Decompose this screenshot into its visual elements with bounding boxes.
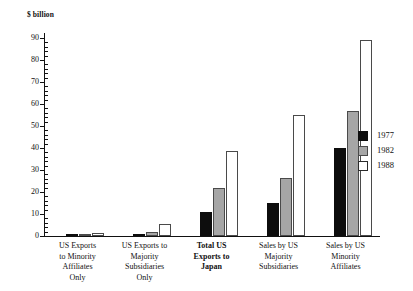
category-label-line: Only xyxy=(111,273,178,284)
category-label-line: Majority xyxy=(111,252,178,263)
category-label-line: Sales by US xyxy=(312,241,379,252)
category-label: US Exports toMajoritySubsidiariesOnly xyxy=(111,241,178,283)
y-tick-label: 20 xyxy=(31,188,39,196)
y-tick-label: 40 xyxy=(31,144,39,152)
legend-item: 1977 xyxy=(358,128,413,143)
category-label-line: Subsidiaries xyxy=(111,262,178,273)
gray-filled-swatch xyxy=(358,146,368,156)
bar-1988-1 xyxy=(92,233,104,236)
bar-1988-3 xyxy=(226,151,238,236)
bar-1977-5 xyxy=(334,148,346,236)
bar-group xyxy=(66,33,104,236)
category-label-line: Total US xyxy=(178,241,245,252)
category-label-line: Subsidiaries xyxy=(245,262,312,273)
bar-1977-2 xyxy=(133,234,145,236)
plot-area: 0102030405060708090 xyxy=(44,33,380,237)
bar-1977-1 xyxy=(66,234,78,236)
category-label-line: Japan xyxy=(178,262,245,273)
bar-1988-4 xyxy=(293,115,305,236)
bar-group xyxy=(267,33,305,236)
bar-1977-4 xyxy=(267,203,279,236)
y-axis-unit-caption: $ billion xyxy=(27,10,54,19)
category-label-line: to Minority xyxy=(44,252,111,263)
black-filled-swatch xyxy=(358,131,368,141)
y-tick-label: 10 xyxy=(31,210,39,218)
legend-item: 1988 xyxy=(358,158,413,173)
y-tick-label: 80 xyxy=(31,56,39,64)
category-label-line: Majority xyxy=(245,252,312,263)
bar-1982-1 xyxy=(79,234,91,236)
legend-label: 1982 xyxy=(377,146,394,155)
bar-chart: $ billion 0102030405060708090 US Exports… xyxy=(0,0,413,291)
category-label-line: Affiliates xyxy=(44,262,111,273)
legend-label: 1988 xyxy=(377,161,394,170)
legend-item: 1982 xyxy=(358,143,413,158)
y-tick-label: 0 xyxy=(35,232,39,240)
white-outline-swatch xyxy=(358,161,368,171)
category-label: US Exportsto MinorityAffiliatesOnly xyxy=(44,241,111,283)
bar-group xyxy=(200,33,238,236)
category-label: Total USExports toJapan xyxy=(178,241,245,273)
legend-label: 1977 xyxy=(377,131,394,140)
category-label: Sales by USMinorityAffiliates xyxy=(312,241,379,273)
category-label: Sales by USMajoritySubsidiaries xyxy=(245,241,312,273)
y-tick-label: 30 xyxy=(31,166,39,174)
legend: 197719821988 xyxy=(358,128,413,173)
y-tick-label: 50 xyxy=(31,122,39,130)
y-tick-label: 60 xyxy=(31,100,39,108)
category-label-line: Minority xyxy=(312,252,379,263)
x-axis-category-labels: US Exportsto MinorityAffiliatesOnlyUS Ex… xyxy=(44,241,380,289)
bar-1982-3 xyxy=(213,188,225,236)
bar-1977-3 xyxy=(200,212,212,236)
category-label-line: Only xyxy=(44,273,111,284)
y-tick-label: 90 xyxy=(31,34,39,42)
bar-group xyxy=(133,33,171,236)
category-label-line: US Exports to xyxy=(111,241,178,252)
bar-1988-2 xyxy=(159,224,171,236)
category-label-line: Sales by US xyxy=(245,241,312,252)
y-tick-label: 70 xyxy=(31,78,39,86)
bar-1982-5 xyxy=(347,111,359,236)
category-label-line: US Exports xyxy=(44,241,111,252)
category-label-line: Exports to xyxy=(178,252,245,263)
category-label-line: Affiliates xyxy=(312,262,379,273)
bar-groups xyxy=(45,33,380,237)
bar-1982-2 xyxy=(146,232,158,236)
bar-1982-4 xyxy=(280,178,292,236)
